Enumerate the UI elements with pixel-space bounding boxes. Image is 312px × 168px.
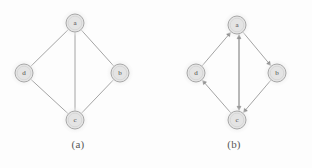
- graph-node-b: b: [264, 60, 291, 87]
- edge-b-c: [82, 80, 114, 113]
- edge-d-a: [202, 34, 229, 65]
- graph-panel-b: adbc (b): [156, 0, 312, 168]
- node-label: c: [235, 116, 238, 124]
- node-label: c: [73, 116, 76, 124]
- node-label: b: [275, 69, 279, 77]
- node-label: b: [118, 69, 122, 77]
- edge-a-b: [243, 32, 269, 63]
- figure-root: adbc (a) adbc (b): [0, 0, 312, 168]
- panel-caption-b: (b): [156, 138, 312, 150]
- graph-node-d: d: [11, 60, 38, 87]
- graph-node-c: c: [224, 107, 251, 134]
- node-label: d: [22, 69, 26, 77]
- graph-diagram-a: adbc: [0, 0, 156, 140]
- graph-node-a: a: [224, 12, 251, 39]
- node-layer: adbc: [11, 10, 134, 134]
- graph-node-d: d: [183, 60, 210, 87]
- edge-d-c: [31, 79, 68, 113]
- edge-b-c: [245, 80, 271, 110]
- graph-node-a: a: [62, 10, 89, 37]
- node-layer: adbc: [183, 12, 291, 134]
- graph-diagram-b: adbc: [156, 0, 312, 140]
- node-label: d: [194, 69, 198, 77]
- graph-panel-a: adbc (a): [0, 0, 156, 168]
- edge-a-d: [31, 30, 68, 67]
- graph-node-b: b: [107, 60, 134, 87]
- edge-layer: [202, 32, 271, 113]
- edge-c-d: [204, 82, 231, 113]
- edge-a-b: [81, 30, 113, 66]
- edge-layer: [31, 30, 114, 114]
- panel-caption-a: (a): [0, 138, 156, 150]
- graph-node-c: c: [62, 107, 89, 134]
